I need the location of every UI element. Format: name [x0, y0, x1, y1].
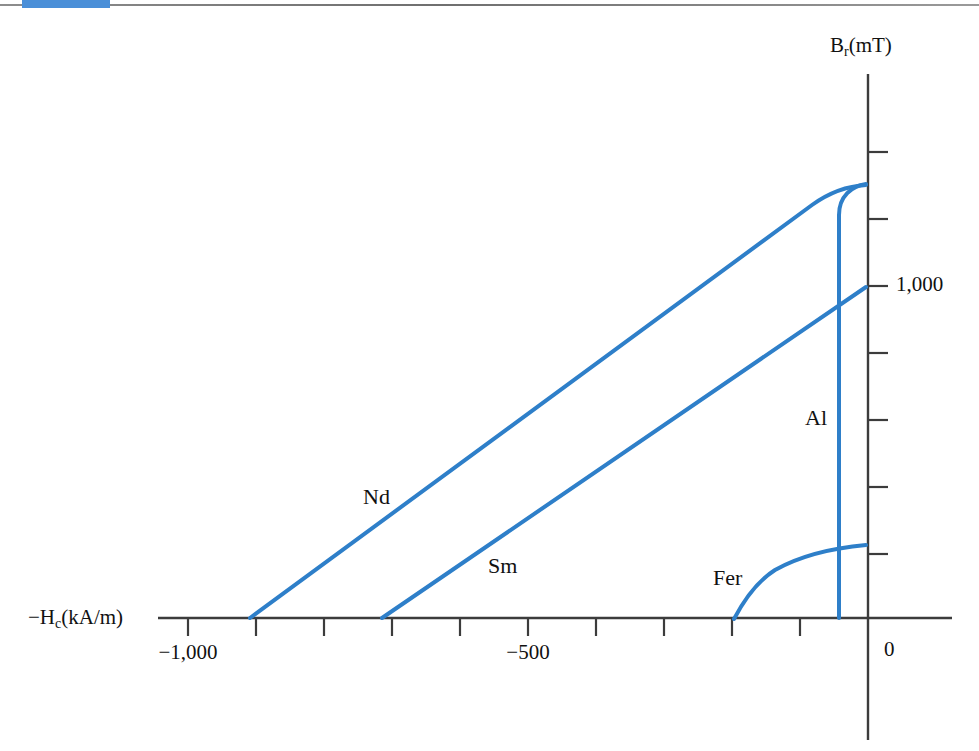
- x-axis-title-unit: (kA/m): [61, 605, 123, 629]
- y-axis-ticks: [868, 152, 888, 554]
- x-axis-title-main: −H: [28, 605, 55, 629]
- chart-page: Br(mT) −Hc(kA/m) −1,000 −500 0 1,000 Nd …: [0, 0, 979, 751]
- series-label-fer: Fer: [713, 565, 742, 591]
- x-tick-label-0: 0: [884, 637, 895, 662]
- series-label-sm: Sm: [488, 553, 517, 579]
- data-series: [250, 184, 866, 619]
- y-axis-title-subscript: r: [844, 44, 849, 59]
- y-axis-title-unit: (mT): [849, 33, 892, 57]
- series-line-al: [839, 184, 866, 618]
- series-line-fer: [734, 545, 866, 619]
- x-axis-title: −Hc(kA/m): [28, 605, 123, 630]
- series-line-sm: [382, 287, 866, 618]
- x-axis-ticks: [188, 618, 800, 636]
- y-axis-title-main: B: [830, 33, 844, 57]
- x-axis-title-subscript: c: [55, 616, 61, 631]
- series-line-nd: [250, 185, 866, 618]
- x-tick-label--1000: −1,000: [152, 640, 224, 665]
- series-label-nd: Nd: [363, 484, 390, 510]
- y-tick-label-1000: 1,000: [896, 272, 943, 297]
- demagnetization-curve-chart: [0, 0, 979, 751]
- series-label-al: Al: [805, 405, 827, 431]
- y-axis-title: Br(mT): [830, 33, 892, 58]
- x-tick-label--500: −500: [496, 640, 560, 665]
